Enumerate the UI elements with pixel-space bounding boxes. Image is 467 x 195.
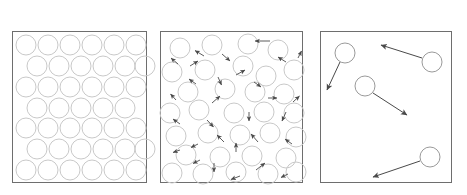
liquid-container-rect (161, 32, 303, 183)
panel-box-liquid (156, 0, 311, 195)
states-of-matter-figure: solid (0, 0, 467, 195)
panel-gas: gas (311, 0, 467, 195)
panel-box-gas (311, 0, 467, 195)
panel-liquid: liquid (156, 0, 311, 195)
solid-container-rect (13, 32, 147, 183)
panel-solid: solid (0, 0, 156, 195)
panel-box-solid (0, 0, 156, 195)
gas-container-rect (321, 32, 452, 183)
